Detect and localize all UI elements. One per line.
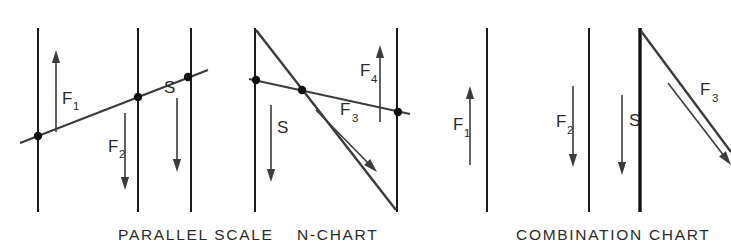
nomogram-figure: F1F2SPARALLEL SCALESF4F3N-CHARTF1F2SF3CO… [0, 0, 731, 248]
parallel-scale-subscript-1: 1 [73, 100, 79, 112]
combination-chart-subscript-3: 3 [712, 92, 718, 104]
n-chart-label-S: S [277, 118, 288, 137]
parallel-scale-index-dot[interactable] [34, 132, 42, 140]
parallel-scale-caption: PARALLEL SCALE [118, 226, 274, 243]
n-chart-label-F3: F [340, 100, 350, 119]
parallel-scale-subscript-2: 2 [119, 148, 125, 160]
parallel-scale-index-dot[interactable] [134, 93, 142, 101]
n-chart-caption: N-CHART [297, 226, 378, 243]
parallel-scale-index-dot[interactable] [184, 73, 192, 81]
panel-n-chart: SF4F3N-CHART [249, 28, 410, 243]
parallel-scale-index-line[interactable] [20, 70, 208, 143]
parallel-scale-arrowhead-f1 [52, 50, 60, 63]
combination-chart-label-F3: F [700, 80, 710, 99]
n-chart-index-dot[interactable] [298, 86, 306, 94]
combination-chart-arrowhead-f3 [719, 151, 731, 165]
n-chart-arrowhead-f4 [376, 45, 384, 58]
combination-chart-label-S: S [629, 111, 640, 130]
n-chart-index-line[interactable] [249, 79, 410, 114]
combination-chart-subscript-2: 2 [567, 124, 573, 136]
combination-chart-caption: COMBINATION CHART [516, 226, 711, 243]
panel-combination-chart: F1F2SF3COMBINATION CHART [453, 28, 731, 243]
parallel-scale-label-F1: F [62, 89, 72, 108]
combination-chart-arrowhead-s [618, 162, 626, 175]
combination-chart-label-F1: F [453, 115, 463, 134]
n-chart-index-dot[interactable] [394, 108, 402, 116]
n-chart-label-F4: F [360, 61, 370, 80]
panel-parallel-scale: F1F2SPARALLEL SCALE [20, 28, 274, 243]
combination-chart-arrowhead-f2 [569, 154, 577, 167]
n-chart-subscript-4: 4 [371, 73, 378, 85]
parallel-scale-label-F2: F [108, 137, 118, 156]
n-chart-subscript-3: 3 [352, 112, 358, 124]
parallel-scale-label-S: S [164, 78, 175, 97]
parallel-scale-arrowhead-f2 [121, 177, 129, 190]
n-chart-arrowhead-s [267, 169, 275, 182]
combination-chart-arrowhead-f1 [466, 86, 474, 99]
figure-canvas: F1F2SPARALLEL SCALESF4F3N-CHARTF1F2SF3CO… [0, 0, 731, 248]
combination-chart-subscript-1: 1 [464, 127, 470, 139]
n-chart-index-dot[interactable] [252, 76, 260, 84]
combination-chart-label-F2: F [556, 112, 566, 131]
parallel-scale-arrowhead-s [173, 159, 181, 172]
